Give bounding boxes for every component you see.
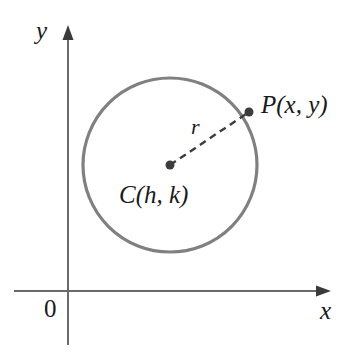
y-axis-label: y bbox=[36, 18, 47, 43]
point-p-label: P(x, y) bbox=[261, 92, 328, 117]
radius-label: r bbox=[191, 116, 200, 138]
radius-dashed-line bbox=[170, 112, 249, 165]
y-axis-arrow-icon bbox=[63, 25, 74, 40]
center-point-dot bbox=[166, 161, 175, 170]
x-axis-label: x bbox=[320, 298, 331, 323]
x-axis-arrow-icon bbox=[316, 286, 331, 297]
origin-label: 0 bbox=[44, 296, 57, 321]
center-point-label: C(h, k) bbox=[119, 182, 188, 207]
circle-diagram-figure: y x 0 r C(h, k) P(x, y) bbox=[0, 0, 353, 357]
point-p-dot bbox=[245, 108, 254, 117]
